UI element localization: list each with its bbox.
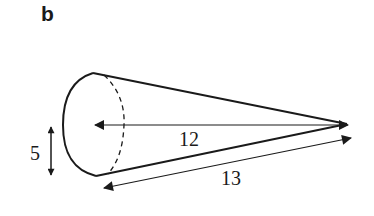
panel-label: b [41, 2, 54, 25]
cone-top-side [93, 73, 347, 124]
height-label: 12 [179, 128, 199, 150]
radius-label: 5 [30, 142, 40, 164]
cone-diagram: b 12 13 5 [0, 0, 374, 216]
cone-base-front-arc [63, 73, 96, 176]
slant-height-label: 13 [221, 167, 241, 189]
